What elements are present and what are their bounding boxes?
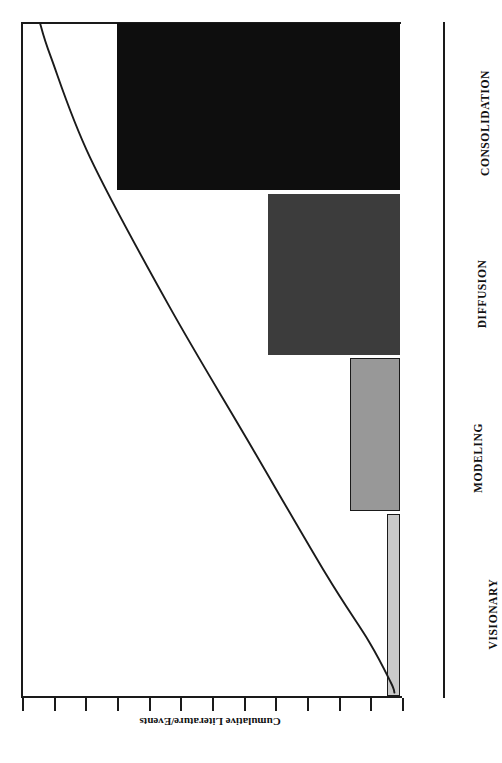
bar-consolidation (117, 23, 400, 190)
bar-visionary (387, 514, 400, 696)
page-right-rule (443, 22, 445, 698)
axis-tick (149, 698, 151, 711)
axis-tick (244, 698, 246, 711)
axis-tick (212, 698, 214, 711)
plot-frame-left-spine (21, 22, 23, 698)
axis-tick (22, 698, 24, 711)
axis-tick (275, 698, 277, 711)
axis-title: Cumulative Literature/Events (0, 716, 420, 728)
bar-modeling (350, 358, 400, 511)
axis-tick (307, 698, 309, 711)
axis-tick (117, 698, 119, 711)
category-label-consolidation: CONSOLIDATION (402, 23, 502, 223)
axis-tick (339, 698, 341, 711)
category-label-visionary: VISIONARY (402, 514, 502, 714)
axis-tick (85, 698, 87, 711)
bar-diffusion (268, 194, 400, 355)
axis-tick (370, 698, 372, 711)
axis-tick (180, 698, 182, 711)
axis-tick (54, 698, 56, 711)
